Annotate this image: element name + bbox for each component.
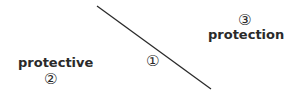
label-protection: protection (208, 28, 284, 42)
marker-3: ③ (238, 12, 251, 28)
marker-1: ① (146, 53, 159, 69)
label-protective: protective (18, 56, 93, 70)
marker-2: ② (44, 71, 57, 87)
diagram-canvas: ① protective ② ③ protection (0, 0, 296, 100)
diagonal-line (97, 6, 211, 89)
